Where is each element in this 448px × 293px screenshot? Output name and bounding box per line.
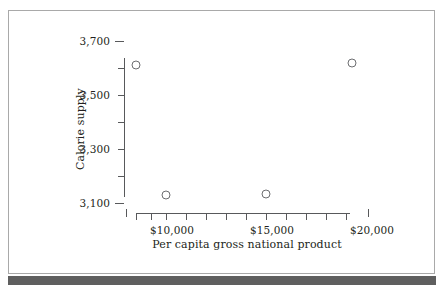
x-axis-tick-end [368,209,369,217]
x-axis-tick-9250 [151,214,152,220]
x-axis-tick-11000 [186,214,187,220]
x-axis-tick-14000 [246,214,247,220]
x-axis-label-15000: $15,000 [242,224,302,236]
y-axis-tick-3600 [118,68,124,69]
y-axis-tick-3500 [118,95,124,96]
x-axis-title: Per capita gross national product [152,238,341,251]
x-axis-tick-18000 [326,214,327,220]
y-axis-label-3300: 3,300 [68,143,110,155]
x-axis-line [136,213,350,214]
data-point [162,191,171,200]
bottom-decoration-bar [8,276,436,285]
y-axis-tick-3100 [115,203,124,204]
x-axis-tick-13000 [226,214,227,220]
x-axis-tick-19000 [346,214,347,220]
x-axis-tick-15000 [266,214,267,220]
y-axis-line [124,58,125,197]
x-axis-label-20000: $20,000 [342,224,402,236]
x-axis-tick-16000 [286,214,287,220]
y-axis-label-3100: 3,100 [68,197,110,209]
data-point [132,61,141,70]
data-point [262,190,271,199]
x-axis-tick-17000 [306,214,307,220]
y-axis-label-3700: 3,700 [68,35,110,47]
scatter-plot: Calorie supply 3,700 3,500 3,300 3,100 $… [0,0,448,293]
y-axis-tick-3200 [118,176,124,177]
y-axis-tick-3300 [118,149,124,150]
x-axis-tick-10000 [166,214,167,220]
y-axis-label-3500: 3,500 [68,89,110,101]
x-axis-tick-8500 [136,214,137,220]
y-axis-tick-3700 [115,41,124,42]
x-axis-tick-start [126,209,127,217]
x-axis-tick-12000 [206,214,207,220]
y-axis-tick-3400 [118,122,124,123]
x-axis-label-10000: $10,000 [142,224,202,236]
data-point [348,59,357,68]
